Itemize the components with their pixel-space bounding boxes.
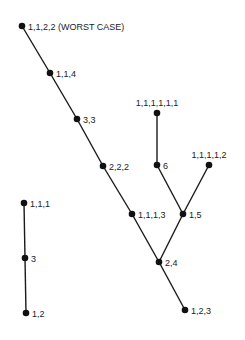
node-label: 1,2,3 bbox=[191, 306, 211, 316]
node-dot bbox=[23, 310, 30, 317]
node-label: 1,1,1 bbox=[30, 199, 50, 209]
node-label: 3 bbox=[31, 254, 36, 264]
tree-node: 1,1,2,2 (WORST CASE) bbox=[19, 22, 125, 32]
node-dot bbox=[154, 110, 161, 117]
node-dot bbox=[180, 211, 187, 218]
tree-node: 1,1,4 bbox=[47, 69, 76, 79]
node-dot bbox=[100, 163, 107, 170]
node-dot bbox=[74, 116, 81, 123]
node-dot bbox=[129, 211, 136, 218]
node-dot bbox=[156, 259, 163, 266]
tree-node: 1,1,1,1,1,1 bbox=[136, 98, 179, 116]
edge-n11112-n15 bbox=[183, 165, 209, 214]
node-dot bbox=[182, 307, 189, 314]
node-label: 1,5 bbox=[189, 210, 202, 220]
tree-node: 6 bbox=[154, 161, 168, 171]
tree-node: 3 bbox=[22, 254, 36, 264]
edge-n33-n222 bbox=[77, 119, 103, 166]
node-dot bbox=[154, 162, 161, 169]
edge-n222-n1113 bbox=[103, 166, 132, 214]
node-label: 1,1,2,2 (WORST CASE) bbox=[28, 22, 124, 32]
tree-node: 3,3 bbox=[74, 115, 96, 125]
node-label: 1,2 bbox=[32, 309, 45, 319]
node-label: 1,1,1,1,2 bbox=[191, 150, 226, 160]
node-label: 1,1,4 bbox=[56, 69, 76, 79]
edge-n15-n24 bbox=[159, 214, 183, 262]
nodes-layer: 1,1,2,2 (WORST CASE)1,1,43,32,2,21,1,1,3… bbox=[19, 22, 227, 319]
node-label: 6 bbox=[163, 161, 168, 171]
node-label: 1,1,1,1,1,1 bbox=[136, 98, 179, 108]
edge-n1122-n114 bbox=[22, 26, 50, 73]
tree-node: 2,4 bbox=[156, 258, 178, 268]
node-dot bbox=[21, 200, 28, 207]
node-label: 3,3 bbox=[83, 115, 96, 125]
node-dot bbox=[47, 70, 54, 77]
edge-n3-n12 bbox=[25, 258, 26, 313]
edge-n111-n3 bbox=[24, 203, 25, 258]
node-dot bbox=[22, 255, 29, 262]
node-dot bbox=[206, 162, 213, 169]
edge-n6-n15 bbox=[157, 165, 183, 214]
tree-node: 1,1,1,1,2 bbox=[191, 150, 226, 168]
edge-n1113-n24 bbox=[132, 214, 159, 262]
tree-node: 1,2 bbox=[23, 309, 45, 319]
edge-n24-n123 bbox=[159, 262, 185, 310]
node-dot bbox=[19, 23, 26, 30]
tree-node: 2,2,2 bbox=[100, 162, 129, 172]
tree-node: 1,5 bbox=[180, 210, 202, 220]
edge-n114-n33 bbox=[50, 73, 77, 119]
tree-node: 1,2,3 bbox=[182, 306, 211, 316]
node-label: 2,4 bbox=[165, 258, 178, 268]
tree-node: 1,1,1 bbox=[21, 199, 50, 209]
node-label: 2,2,2 bbox=[109, 162, 129, 172]
tree-diagram: 1,1,2,2 (WORST CASE)1,1,43,32,2,21,1,1,3… bbox=[0, 0, 245, 340]
node-label: 1,1,1,3 bbox=[138, 210, 166, 220]
